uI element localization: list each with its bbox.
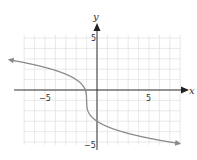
x-axis-arrow-icon [181, 87, 189, 94]
x-axis-label: x [189, 85, 195, 96]
y-axis-arrow-icon [94, 23, 101, 31]
y-tick-label-neg5: −5 [84, 141, 96, 150]
x-tick-label-5: 5 [146, 94, 151, 103]
y-tick-label-5: 5 [91, 34, 96, 43]
y-axis-label: y [92, 11, 99, 22]
function-curve [11, 60, 178, 143]
curve-left-arrow-icon [8, 58, 14, 64]
x-tick-label-neg5: −5 [39, 94, 51, 103]
graph: x y −5 5 5 −5 [0, 0, 197, 160]
